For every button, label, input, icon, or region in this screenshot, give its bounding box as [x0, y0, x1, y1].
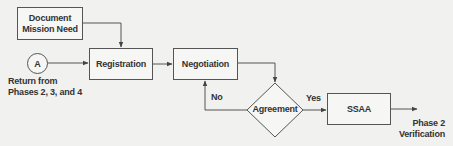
- edge-negotiation-agreement: [238, 63, 275, 82]
- edge-document-registration: [83, 23, 121, 47]
- flowchart: Document Mission Need A Return from Phas…: [0, 0, 453, 146]
- connector-a-circle: A: [27, 53, 48, 74]
- no-edge-label: No: [211, 92, 223, 103]
- negotiation-box: Negotiation: [173, 48, 238, 80]
- agreement-label: Agreement: [249, 104, 301, 114]
- document-line1: Document: [29, 13, 71, 24]
- document-line2: Mission Need: [22, 24, 78, 35]
- document-mission-need-box: Document Mission Need: [17, 7, 83, 40]
- negotiation-label: Negotiation: [182, 59, 229, 70]
- exit-line1: Phase 2: [409, 118, 445, 129]
- return-caption-line2: Phases 2, 3, and 4: [8, 87, 82, 98]
- registration-box: Registration: [89, 48, 153, 80]
- exit-line2: Verification: [395, 129, 445, 140]
- registration-label: Registration: [96, 59, 146, 70]
- yes-edge-label: Yes: [306, 93, 321, 104]
- ssaa-label: SSAA: [347, 104, 371, 115]
- ssaa-box: SSAA: [327, 93, 391, 125]
- connector-a-label: A: [34, 59, 41, 69]
- return-caption-line1: Return from: [8, 76, 57, 87]
